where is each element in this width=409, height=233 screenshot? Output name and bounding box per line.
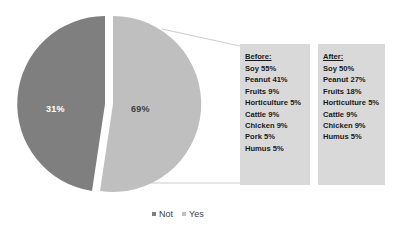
legend-label-not: Not bbox=[159, 209, 173, 219]
list-item: Peanut 41% bbox=[245, 74, 310, 85]
callout-before-list: Soy 55% Peanut 41% Fruits 9% Horticultur… bbox=[245, 63, 310, 154]
pie-chart-figure: 31% 69% Before: Soy 55% Peanut 41% Fruit… bbox=[0, 0, 409, 233]
legend-entry-yes[interactable]: Yes bbox=[182, 209, 204, 219]
list-item: Soy 55% bbox=[245, 63, 310, 74]
list-item: Horticulture 5% bbox=[323, 97, 385, 108]
list-item: Humus 5% bbox=[323, 131, 385, 142]
list-item: Pork 5% bbox=[245, 131, 310, 142]
callout-after-title: After: bbox=[323, 51, 385, 62]
chart-legend: Not Yes bbox=[152, 209, 204, 219]
list-item: Fruits 9% bbox=[245, 86, 310, 97]
list-item: Cattle 9% bbox=[323, 109, 385, 120]
list-item: Humus 5% bbox=[245, 143, 310, 154]
legend-swatch-icon bbox=[152, 212, 156, 216]
list-item: Horticulture 5% bbox=[245, 97, 310, 108]
list-item: Peanut 27% bbox=[323, 74, 385, 85]
pie-slice-yes[interactable] bbox=[100, 16, 201, 192]
legend-label-yes: Yes bbox=[189, 209, 204, 219]
pie-label-yes: 69% bbox=[131, 104, 150, 114]
list-item: Soy 50% bbox=[323, 63, 385, 74]
legend-entry-not[interactable]: Not bbox=[152, 209, 173, 219]
callout-before[interactable]: Before: Soy 55% Peanut 41% Fruits 9% Hor… bbox=[240, 44, 310, 185]
list-item: Fruits 18% bbox=[323, 86, 385, 97]
list-item: Chicken 9% bbox=[245, 120, 310, 131]
list-item: Chicken 9% bbox=[323, 120, 385, 131]
callout-after-list: Soy 50% Peanut 27% Fruits 18% Horticultu… bbox=[323, 63, 385, 143]
list-item: Cattle 9% bbox=[245, 109, 310, 120]
pie-label-not: 31% bbox=[46, 104, 65, 114]
callout-after[interactable]: After: Soy 50% Peanut 27% Fruits 18% Hor… bbox=[318, 44, 385, 185]
callout-before-title: Before: bbox=[245, 51, 310, 62]
legend-swatch-icon bbox=[182, 212, 186, 216]
